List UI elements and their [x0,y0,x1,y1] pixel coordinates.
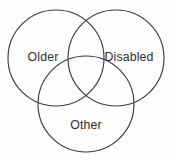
venn-label-older: Older [28,50,59,64]
venn-diagram: Older Disabled Other [0,0,171,162]
venn-circle-other[interactable] [38,56,134,152]
venn-diagram-canvas: Older Disabled Other [0,0,171,162]
venn-label-other: Other [70,118,102,132]
venn-label-disabled: Disabled [104,50,153,64]
